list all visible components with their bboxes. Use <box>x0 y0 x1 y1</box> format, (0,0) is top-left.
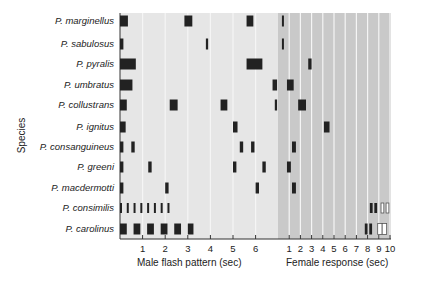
x-tick-male: 4 <box>202 243 218 254</box>
species-label: P. macdermotti <box>4 182 114 193</box>
species-label: P. ignitus <box>4 121 114 132</box>
species-label: P. consanguineus <box>4 141 114 152</box>
x-tick-male: 5 <box>225 243 241 254</box>
species-label: P. greeni <box>4 161 114 172</box>
x-axis-title-male: Male flash pattern (sec) <box>137 257 242 268</box>
species-label: P. marginellus <box>4 15 114 26</box>
x-tick-male: 1 <box>135 243 151 254</box>
x-tick-male: 3 <box>180 243 196 254</box>
species-label: P. pyralis <box>4 58 114 69</box>
species-label: P. collustrans <box>4 99 114 110</box>
species-label: P. sabulosus <box>4 38 114 49</box>
x-axis-title-female: Female response (sec) <box>286 257 388 268</box>
species-label: P. carolinus <box>4 223 114 234</box>
x-tick-female: 10 <box>382 243 398 254</box>
x-tick-male: 6 <box>248 243 264 254</box>
firefly-flash-chart: Species 12345612345678910P. marginellusP… <box>0 0 423 284</box>
species-label: P. consimilis <box>4 202 114 213</box>
x-tick-male: 2 <box>157 243 173 254</box>
species-label: P. umbratus <box>4 79 114 90</box>
